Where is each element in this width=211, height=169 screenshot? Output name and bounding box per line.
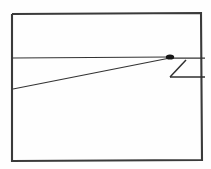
line-drawing <box>0 0 211 169</box>
sketch-canvas <box>0 0 211 169</box>
vertex-marker-icon <box>166 54 174 59</box>
canvas-background <box>0 0 211 169</box>
